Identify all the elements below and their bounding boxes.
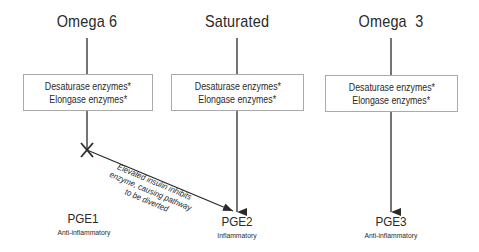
pge3-effect: Anti-inflammatory: [340, 231, 442, 240]
enzyme-label: Elongase enzymes*: [353, 94, 431, 107]
omega3-title: Omega 3: [332, 12, 451, 32]
saturated-title: Saturated: [178, 12, 297, 32]
saturated-enzyme-box: Desaturase enzymes* Elongase enzymes*: [171, 74, 304, 111]
enzyme-label: Desaturase enzymes*: [194, 80, 280, 93]
omega6-enzyme-box: Desaturase enzymes* Elongase enzymes*: [23, 74, 153, 111]
omega6-title: Omega 6: [28, 12, 147, 32]
pge3-label: PGE3: [346, 214, 436, 229]
enzyme-label: Desaturase enzymes*: [348, 81, 434, 94]
pge2-effect: Inflammatory: [186, 231, 288, 240]
pge1-label: PGE1: [38, 211, 128, 226]
enzyme-label: Elongase enzymes*: [49, 93, 127, 106]
omega3-enzyme-box: Desaturase enzymes* Elongase enzymes*: [325, 75, 458, 112]
pge1-effect: Anti-inflammatory: [33, 228, 135, 237]
enzyme-label: Desaturase enzymes*: [45, 80, 131, 93]
pge2-label: PGE2: [192, 214, 282, 229]
enzyme-label: Elongase enzymes*: [199, 93, 277, 106]
